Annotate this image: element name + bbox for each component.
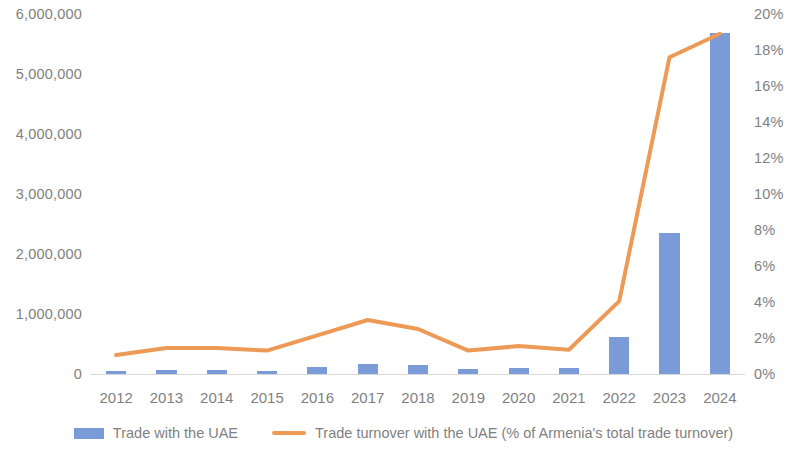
legend-item-bar[interactable]: Trade with the UAE bbox=[74, 425, 238, 441]
bar-2018 bbox=[408, 365, 428, 374]
right-axis-tick-label: 16% bbox=[754, 79, 784, 94]
left-axis-tick-label: 2,000,000 bbox=[16, 247, 82, 262]
plot-area bbox=[91, 14, 745, 374]
category-tick-label: 2012 bbox=[99, 390, 132, 405]
bar-2022 bbox=[609, 337, 629, 374]
right-axis-tick-label: 2% bbox=[754, 331, 775, 346]
left-axis-tick-label: 3,000,000 bbox=[16, 187, 82, 202]
left-axis-tick-label: 1,000,000 bbox=[16, 307, 82, 322]
right-axis-tick-label: 20% bbox=[754, 7, 784, 22]
bar-2016 bbox=[307, 367, 327, 374]
bar-series-group bbox=[106, 33, 730, 374]
right-axis-tick-label: 12% bbox=[754, 151, 784, 166]
category-tick-label: 2017 bbox=[351, 390, 384, 405]
right-axis-tick-label: 10% bbox=[754, 187, 784, 202]
legend-label-line: Trade turnover with the UAE (% of Armeni… bbox=[315, 425, 733, 441]
category-tick-label: 2015 bbox=[250, 390, 283, 405]
legend-item-line[interactable]: Trade turnover with the UAE (% of Armeni… bbox=[272, 425, 733, 441]
line-series-group bbox=[116, 34, 720, 355]
left-axis-tick-label: 5,000,000 bbox=[16, 67, 82, 82]
left-axis-tick-label: 0 bbox=[74, 367, 82, 382]
category-tick-label: 2013 bbox=[150, 390, 183, 405]
category-tick-label: 2021 bbox=[552, 390, 585, 405]
trade-turnover-percent-line bbox=[116, 34, 720, 355]
category-tick-label: 2016 bbox=[301, 390, 334, 405]
bar-swatch-icon bbox=[74, 428, 104, 439]
left-axis-tick-label: 6,000,000 bbox=[16, 7, 82, 22]
bar-2024 bbox=[710, 33, 730, 374]
chart-container: 01,000,0002,000,0003,000,0004,000,0005,0… bbox=[0, 0, 807, 450]
chart-legend: Trade with the UAE Trade turnover with t… bbox=[0, 425, 807, 441]
category-tick-label: 2022 bbox=[603, 390, 636, 405]
category-tick-label: 2014 bbox=[200, 390, 233, 405]
right-axis-tick-label: 0% bbox=[754, 367, 775, 382]
category-tick-label: 2020 bbox=[502, 390, 535, 405]
category-axis: 2012201320142015201620172018201920202021… bbox=[91, 374, 745, 410]
plot-svg bbox=[91, 14, 745, 374]
right-axis-tick-label: 8% bbox=[754, 223, 775, 238]
category-tick-label: 2018 bbox=[401, 390, 434, 405]
category-tick-label: 2023 bbox=[653, 390, 686, 405]
category-tick-label: 2024 bbox=[703, 390, 736, 405]
right-axis-tick-label: 4% bbox=[754, 295, 775, 310]
legend-label-bar: Trade with the UAE bbox=[113, 425, 238, 441]
bar-2023 bbox=[659, 233, 679, 374]
right-axis-tick-label: 18% bbox=[754, 43, 784, 58]
left-axis-tick-label: 4,000,000 bbox=[16, 127, 82, 142]
right-axis-tick-label: 14% bbox=[754, 115, 784, 130]
right-axis-tick-label: 6% bbox=[754, 259, 775, 274]
bar-2017 bbox=[358, 364, 378, 374]
category-tick-label: 2019 bbox=[452, 390, 485, 405]
line-swatch-icon bbox=[272, 431, 306, 435]
axis-baseline bbox=[91, 374, 745, 375]
